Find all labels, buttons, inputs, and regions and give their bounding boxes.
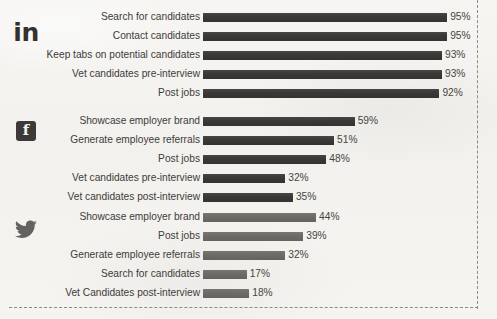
bar-value-label: 32% — [288, 246, 308, 264]
chart-border-bottom-dashed — [9, 307, 478, 308]
bar-category-label: Contact candidates — [113, 27, 200, 45]
bar — [203, 89, 439, 98]
social-recruiting-bar-chart: inSearch for candidates95%Contact candid… — [0, 0, 497, 319]
bar-track — [203, 84, 439, 102]
bar-category-label: Search for candidates — [101, 8, 200, 26]
bar-value-label: 93% — [445, 46, 465, 64]
bar-value-label: 51% — [337, 131, 357, 149]
bar-track — [203, 8, 447, 26]
bar-track — [203, 246, 285, 264]
bar — [203, 251, 285, 260]
bar — [203, 289, 249, 298]
bar-value-label: 17% — [250, 265, 270, 283]
bar-value-label: 32% — [288, 169, 308, 187]
bar-value-label: 95% — [450, 27, 470, 45]
chart-row: Vet candidates pre-interview32% — [0, 169, 477, 187]
bar-track — [203, 27, 447, 45]
bar-track — [203, 150, 326, 168]
bar — [203, 13, 447, 22]
chart-row: Vet candidates post-interview35% — [0, 188, 477, 206]
chart-row: Showcase employer brand44% — [0, 208, 477, 226]
bar — [203, 232, 303, 241]
bar-category-label: Vet Candidates post-interview — [65, 284, 200, 302]
bar — [203, 32, 447, 41]
bar-category-label: Showcase employer brand — [79, 208, 200, 226]
bar-value-label: 59% — [358, 112, 378, 130]
bar-value-label: 93% — [445, 65, 465, 83]
bar-category-label: Vet candidates post-interview — [67, 188, 200, 206]
bar-category-label: Generate employee referrals — [70, 246, 200, 264]
bar-category-label: Search for candidates — [101, 265, 200, 283]
chart-row: Post jobs39% — [0, 227, 477, 245]
bar — [203, 174, 285, 183]
bar-track — [203, 265, 247, 283]
bar-value-label: 35% — [296, 188, 316, 206]
chart-border-right-dashed — [477, 0, 478, 309]
chart-row: Keep tabs on potential candidates93% — [0, 46, 477, 64]
bar-track — [203, 65, 442, 83]
bar-track — [203, 131, 334, 149]
bar-track — [203, 46, 442, 64]
bar — [203, 117, 355, 126]
chart-row: Search for candidates95% — [0, 8, 477, 26]
bar — [203, 213, 316, 222]
bar-value-label: 95% — [450, 8, 470, 26]
bar-category-label: Showcase employer brand — [79, 112, 200, 130]
chart-row: Search for candidates17% — [0, 265, 477, 283]
bar-track — [203, 227, 303, 245]
bar — [203, 70, 442, 79]
chart-row: Generate employee referrals32% — [0, 246, 477, 264]
chart-row: Showcase employer brand59% — [0, 112, 477, 130]
bar-category-label: Post jobs — [158, 150, 200, 168]
bar — [203, 155, 326, 164]
bar-value-label: 18% — [252, 284, 272, 302]
bar-value-label: 92% — [442, 84, 462, 102]
bar-value-label: 39% — [306, 227, 326, 245]
chart-row: Generate employee referrals51% — [0, 131, 477, 149]
bar-category-label: Keep tabs on potential candidates — [47, 46, 201, 64]
bar — [203, 51, 442, 60]
bar — [203, 270, 247, 279]
bar — [203, 136, 334, 145]
chart-row: Vet Candidates post-interview18% — [0, 284, 477, 302]
bar-value-label: 48% — [329, 150, 349, 168]
bar-category-label: Post jobs — [158, 84, 200, 102]
bar-track — [203, 284, 249, 302]
bar-category-label: Vet candidates pre-interview — [72, 65, 200, 83]
bar-track — [203, 188, 293, 206]
bar — [203, 193, 293, 202]
bar-category-label: Post jobs — [158, 227, 200, 245]
bar-value-label: 44% — [319, 208, 339, 226]
chart-row: Contact candidates95% — [0, 27, 477, 45]
chart-row: Vet candidates pre-interview93% — [0, 65, 477, 83]
bar-track — [203, 112, 355, 130]
chart-row: Post jobs92% — [0, 84, 477, 102]
bar-track — [203, 169, 285, 187]
bar-category-label: Vet candidates pre-interview — [72, 169, 200, 187]
bar-category-label: Generate employee referrals — [70, 131, 200, 149]
chart-row: Post jobs48% — [0, 150, 477, 168]
bar-track — [203, 208, 316, 226]
